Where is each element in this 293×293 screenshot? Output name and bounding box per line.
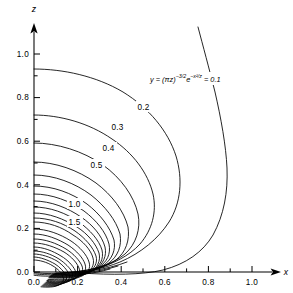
contour-label-0.4-text: 0.4 xyxy=(103,144,115,153)
contour-level-0.4 xyxy=(34,143,139,273)
z-tick-label-1: 0.2 xyxy=(17,224,29,233)
contour-label-0.3: 0.3 xyxy=(110,121,126,132)
contour-label-0.5-text: 0.5 xyxy=(91,161,103,170)
x-axis-label: x xyxy=(283,267,289,277)
contour-label-1.0-text: 1.0 xyxy=(69,200,81,209)
contour-label-1.5-text: 1.5 xyxy=(69,218,81,227)
x-tick-label-3: 0.6 xyxy=(159,278,171,287)
z-tick-label-3: 0.6 xyxy=(17,137,29,146)
formula-annotation: y = (πz)−3/2e−x²/z= 0.1 xyxy=(148,72,240,85)
contour-level-0.9 xyxy=(34,201,106,276)
contour-label-1.0: 1.0 xyxy=(67,198,83,209)
formula-base: y = (πz) xyxy=(149,75,176,84)
z-axis-label: z xyxy=(31,4,37,14)
contour-label-0.2-text: 0.2 xyxy=(138,103,150,112)
contour-label-0.4: 0.4 xyxy=(101,142,117,153)
z-axis-arrowhead xyxy=(30,23,37,33)
contour-plot-canvas: 0.2 0.3 0.4 0.5 1.0 1.5 y = (πz)−3/2e−x²… xyxy=(0,0,293,293)
contour-label-0.5: 0.5 xyxy=(89,159,105,170)
contour-label-0.2: 0.2 xyxy=(136,101,152,112)
z-tick-label-4: 0.8 xyxy=(17,93,29,102)
contour-label-0.3-text: 0.3 xyxy=(112,123,124,132)
formula-tail: = 0.1 xyxy=(204,75,221,84)
axis-z xyxy=(30,23,37,272)
contour-label-1.5: 1.5 xyxy=(67,216,83,227)
z-tick-label-0: 0.0 xyxy=(17,268,29,277)
z-tick-label-2: 0.4 xyxy=(17,181,29,190)
formula-exponent-2: −x²/z xyxy=(190,73,202,79)
x-axis-arrowhead xyxy=(271,268,281,275)
x-tick-label-0: 0.0 xyxy=(28,278,40,287)
contour-level-1.3 xyxy=(34,222,94,278)
z-axis-minor-ticks xyxy=(34,76,38,250)
z-axis-tick-labels: 0.0 0.2 0.4 0.6 0.8 1.0 xyxy=(17,50,29,277)
formula-exponent-1: −3/2 xyxy=(176,73,187,79)
contour-level-0.3 xyxy=(34,115,154,273)
contour-level-0.2 xyxy=(34,69,180,273)
x-tick-label-5: 1.0 xyxy=(246,278,258,287)
contour-figure: 0.2 0.3 0.4 0.5 1.0 1.5 y = (πz)−3/2e−x²… xyxy=(0,0,293,293)
x-tick-label-4: 0.8 xyxy=(202,278,214,287)
x-tick-label-1: 0.2 xyxy=(71,278,83,287)
x-tick-label-2: 0.4 xyxy=(115,278,127,287)
z-tick-label-5: 1.0 xyxy=(17,50,29,59)
